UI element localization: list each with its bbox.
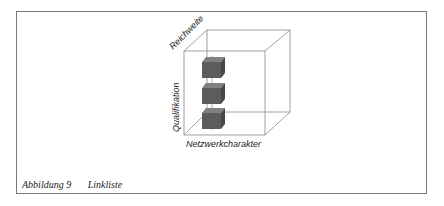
axis-label-netzwerkcharakter: Netzwerkcharakter — [186, 139, 262, 149]
box-middle — [202, 83, 225, 104]
figure-title: Linkliste — [88, 179, 122, 190]
box-bottom — [202, 108, 225, 129]
figure-caption: Abbildung 9 Linkliste — [22, 179, 122, 190]
box-top — [202, 57, 225, 78]
cube-diagram: Reichweite Qualifikation Netzwerkcharakt… — [0, 0, 444, 206]
axis-label-qualifikation: Qualifikation — [171, 82, 181, 132]
axis-label-reichweite: Reichweite — [167, 13, 205, 51]
figure-number: Abbildung 9 — [22, 179, 71, 190]
cube-wireframe — [184, 30, 290, 135]
